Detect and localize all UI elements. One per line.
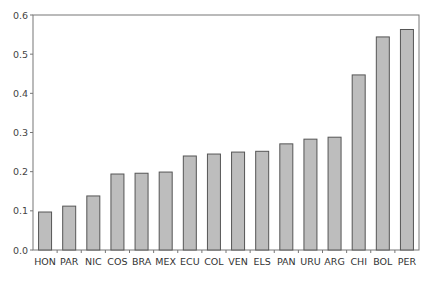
bar-mex — [159, 172, 172, 250]
plot-area — [33, 15, 419, 250]
bar-arg — [328, 137, 341, 250]
x-tick-label: ELS — [254, 256, 271, 267]
x-tick-label: BOL — [373, 256, 393, 267]
y-tick-label: 0.0 — [13, 245, 28, 256]
y-tick-label: 0.1 — [13, 205, 28, 216]
bar-par — [63, 206, 76, 250]
x-tick-label: BRA — [132, 256, 152, 267]
x-tick-label: ECU — [180, 256, 200, 267]
y-tick-label: 0.2 — [13, 166, 28, 177]
bar-hon — [39, 212, 52, 250]
x-tick-label: HON — [34, 256, 56, 267]
x-axis: HONPARNICCOSBRAMEXECUCOLVENELSPANURUARGC… — [34, 250, 416, 267]
bar-uru — [304, 139, 317, 250]
x-tick-label: PAN — [277, 256, 296, 267]
bar-col — [207, 154, 220, 250]
bar-ecu — [183, 156, 196, 250]
x-tick-label: URU — [300, 256, 321, 267]
x-tick-label: MEX — [155, 256, 176, 267]
x-tick-label: PER — [398, 256, 417, 267]
x-tick-label: CHI — [350, 256, 367, 267]
x-tick-label: NIC — [85, 256, 102, 267]
bar-chi — [352, 75, 365, 250]
bar-ven — [232, 152, 245, 250]
bar-cos — [111, 174, 124, 250]
bar-els — [256, 151, 269, 250]
bar-nic — [87, 196, 100, 250]
x-tick-label: COS — [107, 256, 127, 267]
y-axis: 0.00.10.20.30.40.50.6 — [13, 10, 33, 256]
bar-bol — [376, 37, 389, 250]
y-tick-label: 0.6 — [13, 10, 28, 21]
y-tick-label: 0.4 — [13, 88, 28, 99]
y-tick-label: 0.5 — [13, 49, 28, 60]
bar-per — [400, 29, 413, 250]
x-tick-label: PAR — [60, 256, 79, 267]
y-tick-label: 0.3 — [13, 127, 28, 138]
x-tick-label: VEN — [228, 256, 248, 267]
bar-bra — [135, 173, 148, 250]
bar-pan — [280, 144, 293, 250]
x-tick-label: ARG — [324, 256, 344, 267]
x-tick-label: COL — [204, 256, 224, 267]
bar-chart: 0.00.10.20.30.40.50.6 HONPARNICCOSBRAMEX… — [0, 0, 429, 281]
